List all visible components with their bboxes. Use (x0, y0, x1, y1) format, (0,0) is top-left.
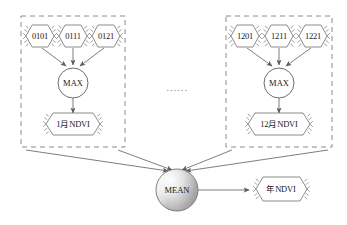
output-stack-ndvi-january (43, 113, 103, 135)
edge-1201-to-max-december (247, 48, 272, 66)
edge-0101-to-max-january (42, 48, 66, 66)
input-stack-0121 (89, 25, 123, 47)
edge-1221-to-max-december (286, 48, 311, 66)
edge-ndvi-december-to-mean (182, 150, 232, 170)
diagram-vector-layer (0, 0, 347, 225)
edge-0121-to-max-january (80, 48, 104, 66)
input-stack-1211 (262, 25, 296, 47)
input-stack-0111 (56, 25, 90, 47)
edge-ndvi-january-to-mean (118, 150, 172, 170)
output-stack-ndvi-annual (253, 177, 310, 201)
output-stack-ndvi-december (245, 113, 313, 135)
edge-group-december-to-mean (186, 150, 328, 171)
input-stack-1201 (228, 25, 262, 47)
diagram-canvas: 0101 0111 0121 MAX 1月NDVI 1201 1211 1221… (0, 0, 347, 225)
max-circle-january (58, 68, 88, 98)
input-stack-0101 (23, 25, 57, 47)
mean-circle-sheen (157, 170, 198, 211)
max-circle-december (264, 68, 294, 98)
input-stack-1221 (296, 25, 330, 47)
